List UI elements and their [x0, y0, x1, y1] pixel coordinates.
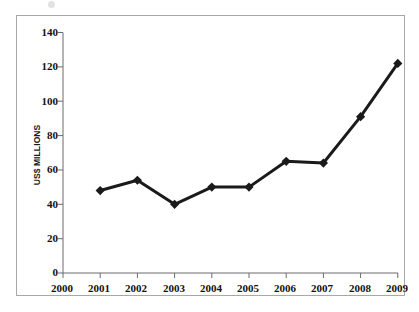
y-tick-label-40: 40 [24, 198, 58, 210]
chart-plot-frame [16, 15, 405, 296]
y-tick-label-60: 60 [24, 163, 58, 175]
x-tick-label-2008: 2008 [340, 282, 380, 294]
data-point-marker [207, 183, 216, 192]
x-tick-label-2009: 2009 [377, 282, 417, 294]
x-tick-label-2005: 2005 [228, 282, 268, 294]
data-series-layer [96, 59, 403, 209]
y-tick-label-140: 140 [24, 26, 58, 38]
x-tick-label-2001: 2001 [79, 282, 119, 294]
x-tick-label-2003: 2003 [154, 282, 194, 294]
line-chart-canvas [17, 16, 404, 295]
y-tick-label-20: 20 [24, 232, 58, 244]
x-tick-label-2007: 2007 [302, 282, 342, 294]
x-tick-label-2004: 2004 [191, 282, 231, 294]
y-axis-title-wrap: US$ MILLIONS [30, 95, 44, 215]
data-point-marker [96, 186, 105, 195]
y-tick-label-120: 120 [24, 60, 58, 72]
y-tick-label-0: 0 [24, 266, 58, 278]
x-axis-ticks [63, 273, 398, 278]
chart-figure: US$ MILLIONS 140 120 100 80 60 40 20 0 2… [0, 0, 419, 312]
y-axis-ticks [58, 33, 63, 274]
scan-artifact [48, 1, 55, 8]
y-tick-label-100: 100 [24, 95, 58, 107]
x-tick-label-2000: 2000 [42, 282, 82, 294]
y-tick-label-80: 80 [24, 129, 58, 141]
x-tick-label-2006: 2006 [265, 282, 305, 294]
x-tick-label-2002: 2002 [116, 282, 156, 294]
